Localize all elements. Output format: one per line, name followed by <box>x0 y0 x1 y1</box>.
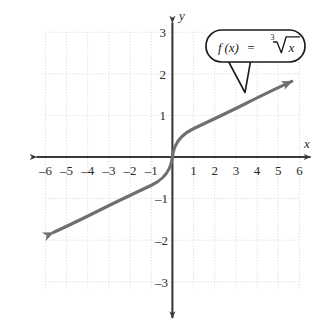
x-tick-label: 2 <box>211 163 218 178</box>
x-tick-label: –4 <box>80 163 95 178</box>
y-tick-label: –3 <box>154 275 168 290</box>
callout-operator: = <box>247 40 256 55</box>
x-tick-label: –3 <box>101 163 115 178</box>
x-tick-label: 4 <box>254 163 261 178</box>
x-tick-label: 6 <box>296 163 303 178</box>
x-tick-label: 1 <box>190 163 197 178</box>
y-tick-label: –2 <box>154 233 168 248</box>
x-tick-label: –1 <box>144 163 158 178</box>
cube-root-graph-svg: –6 –5 –4 –3 –2 –1 1 2 3 4 5 6 3 2 1 –1 –… <box>0 0 333 332</box>
y-tick-label: 1 <box>160 108 167 123</box>
x-tick-label: 5 <box>275 163 282 178</box>
callout-radical-index: 3 <box>271 33 275 42</box>
callout-variable: (x) <box>225 40 239 55</box>
graph-figure: –6 –5 –4 –3 –2 –1 1 2 3 4 5 6 3 2 1 –1 –… <box>0 0 333 332</box>
y-axis-label: y <box>177 8 185 23</box>
x-tick-label: –6 <box>38 163 53 178</box>
x-tick-label: –5 <box>59 163 73 178</box>
y-tick-label: 2 <box>160 67 167 82</box>
y-tick-label: –1 <box>154 191 168 206</box>
x-axis-label: x <box>303 136 310 151</box>
callout-radicand: x <box>288 40 295 55</box>
x-tick-label: 3 <box>233 163 240 178</box>
x-tick-label: –2 <box>123 163 137 178</box>
y-tick-label: 3 <box>160 25 167 40</box>
